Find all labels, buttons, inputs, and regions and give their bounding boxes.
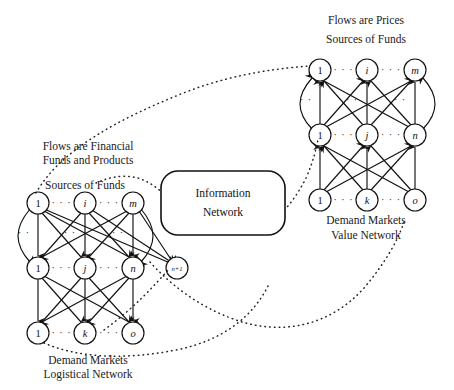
svg-text:n: n bbox=[412, 130, 417, 141]
svg-text:m: m bbox=[411, 65, 419, 76]
svg-text:· · ·: · · · bbox=[334, 194, 354, 205]
left-edges-mid-to-bottom bbox=[38, 276, 133, 322]
svg-text:n+1: n+1 bbox=[172, 265, 183, 272]
svg-text:k: k bbox=[83, 328, 88, 339]
svg-text:· · ·: · · · bbox=[52, 262, 72, 273]
svg-text:· · ·: · · · bbox=[52, 327, 72, 338]
right-edges-mid-to-top bbox=[300, 78, 435, 129]
left-caption-line1: Demand Markets bbox=[48, 354, 128, 366]
right-side-ellipsis-c: · · bbox=[394, 94, 406, 105]
left-heading-line1: Flows are Financial bbox=[43, 140, 134, 152]
right-edges-bottom-to-mid bbox=[320, 146, 415, 192]
dotted-curve-left-bottom-to-center bbox=[44, 286, 268, 356]
svg-text:1: 1 bbox=[317, 130, 322, 141]
right-caption-line1: Demand Markets bbox=[326, 214, 406, 226]
information-network-box[interactable]: Information Network bbox=[161, 171, 285, 235]
information-network-label-line2: Network bbox=[203, 206, 243, 218]
svg-text:· · ·: · · · bbox=[381, 129, 401, 140]
network-diagram: Flows are Financial Funds and Products S… bbox=[0, 0, 454, 390]
svg-text:n: n bbox=[130, 263, 135, 274]
left-row-demand-markets: 1 · · · k · · · o bbox=[27, 322, 144, 344]
right-row-sources-of-funds: 1 · · · i · · · m bbox=[309, 59, 426, 81]
figure-canvas: Flows are Financial Funds and Products S… bbox=[0, 0, 454, 390]
left-side-ellipsis-a: · · bbox=[18, 227, 30, 238]
svg-text:1: 1 bbox=[35, 263, 40, 274]
svg-text:· · ·: · · · bbox=[334, 129, 354, 140]
right-heading-line1: Flows are Prices bbox=[328, 14, 405, 26]
svg-text:m: m bbox=[129, 198, 137, 209]
left-network-group: Flows are Financial Funds and Products S… bbox=[18, 140, 188, 381]
svg-text:1: 1 bbox=[35, 328, 40, 339]
svg-text:k: k bbox=[365, 195, 370, 206]
left-side-ellipsis-b: · · bbox=[64, 227, 76, 238]
svg-text:i: i bbox=[366, 65, 369, 76]
svg-text:i: i bbox=[84, 198, 87, 209]
svg-text:· · ·: · · · bbox=[99, 197, 119, 208]
right-caption-line2: Value Network bbox=[331, 229, 401, 241]
left-row-sources-of-funds: 1 · · · i · · · m bbox=[27, 192, 144, 214]
right-side-ellipsis-b: · · bbox=[346, 94, 358, 105]
right-side-ellipsis-a: · · bbox=[300, 94, 312, 105]
left-tier-top-label: Sources of Funds bbox=[45, 179, 125, 191]
svg-text:o: o bbox=[130, 328, 135, 339]
left-side-ellipsis-c: · · bbox=[112, 227, 124, 238]
right-row-intermediaries: 1 · · · j · · · n bbox=[309, 124, 426, 146]
left-heading-line2: Funds and Products bbox=[43, 154, 134, 166]
right-heading-line2: Sources of Funds bbox=[326, 33, 406, 45]
svg-text:1: 1 bbox=[35, 198, 40, 209]
svg-text:· · ·: · · · bbox=[99, 262, 119, 273]
svg-text:1: 1 bbox=[317, 195, 322, 206]
left-caption-line2: Logistical Network bbox=[43, 368, 132, 381]
svg-text:· · ·: · · · bbox=[381, 64, 401, 75]
svg-text:1: 1 bbox=[317, 65, 322, 76]
left-edges-top-to-mid bbox=[18, 209, 172, 263]
svg-text:· · ·: · · · bbox=[52, 197, 72, 208]
information-network-label-line1: Information bbox=[196, 187, 251, 199]
svg-text:· · ·: · · · bbox=[334, 64, 354, 75]
information-network-box-shape[interactable] bbox=[161, 171, 285, 235]
right-row-demand-markets: 1 · · · k · · · o bbox=[309, 189, 426, 211]
svg-text:· · ·: · · · bbox=[381, 194, 401, 205]
svg-text:o: o bbox=[412, 195, 417, 206]
right-network-group: Flows are Prices Sources of Funds bbox=[300, 14, 435, 241]
svg-text:· · ·: · · · bbox=[99, 327, 119, 338]
